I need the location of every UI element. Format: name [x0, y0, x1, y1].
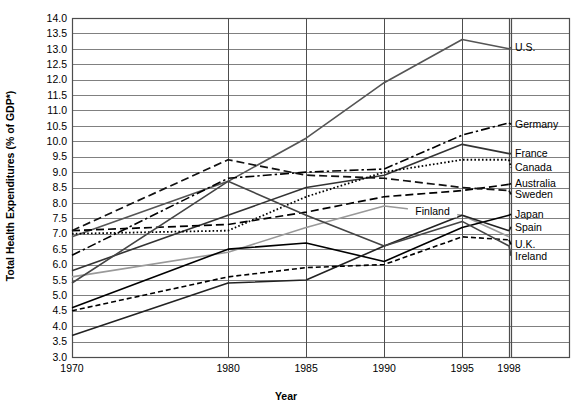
y-tick-label: 9.0 — [52, 166, 67, 178]
vertical-gridlines — [73, 18, 512, 357]
y-axis-tick-labels: 14.013.513.012.512.011.511.010.510.09.59… — [47, 12, 68, 363]
y-tick-label: 3.0 — [52, 351, 67, 363]
series-label-spain: Spain — [515, 221, 542, 233]
y-tick-label: 6.0 — [52, 258, 67, 270]
x-axis-tick-labels: 197019801985199019951998 — [60, 362, 521, 374]
y-tick-label: 12.5 — [47, 58, 68, 70]
y-axis-title: Total Health Expenditures (% of GDP*) — [4, 91, 16, 282]
y-tick-label: 5.5 — [52, 274, 67, 286]
y-tick-label: 13.5 — [47, 27, 68, 39]
series-label-canada: Canada — [515, 161, 552, 173]
y-tick-label: 6.5 — [52, 243, 67, 255]
y-tick-label: 3.5 — [52, 335, 67, 347]
y-tick-label: 8.5 — [52, 181, 67, 193]
y-tick-label: 9.5 — [52, 150, 67, 162]
y-tick-label: 10.0 — [47, 135, 68, 147]
x-tick-label: 1985 — [294, 362, 318, 374]
y-tick-label: 7.5 — [52, 212, 67, 224]
y-tick-label: 11.5 — [47, 89, 67, 101]
series-right-labels: U.S.GermanyFranceCanadaAustraliaSwedenJa… — [515, 41, 559, 262]
leader-line — [509, 214, 511, 215]
y-tick-label: 13.0 — [47, 43, 68, 55]
y-tick-label: 11.0 — [47, 104, 67, 116]
series-label-finland: Finland — [415, 205, 450, 217]
x-tick-label: 1990 — [372, 362, 396, 374]
y-tick-label: 12.0 — [47, 73, 68, 85]
chart-figure: 14.013.513.012.512.011.511.010.510.09.59… — [0, 0, 572, 409]
y-tick-label: 5.0 — [52, 289, 67, 301]
y-tick-label: 7.0 — [52, 227, 67, 239]
horizontal-gridlines — [72, 19, 569, 358]
x-tick-label: 1998 — [497, 362, 521, 374]
y-tick-label: 4.0 — [52, 320, 67, 332]
series-label-ireland: Ireland — [515, 250, 547, 262]
series-label-us: U.S. — [515, 41, 535, 53]
series-label-japan: Japan — [515, 208, 544, 220]
series-line-sweden — [72, 160, 509, 231]
y-tick-label: 4.5 — [52, 304, 67, 316]
x-tick-label: 1980 — [216, 362, 240, 374]
y-tick-label: 8.0 — [52, 197, 67, 209]
series-label-uk: U.K. — [515, 238, 535, 250]
line-chart-canvas: 14.013.513.012.512.011.511.010.510.09.59… — [0, 0, 572, 409]
x-tick-label: 1995 — [450, 362, 474, 374]
x-tick-label: 1970 — [60, 362, 84, 374]
y-tick-label: 14.0 — [47, 12, 68, 24]
y-tick-label: 10.5 — [47, 120, 68, 132]
series-label-germany: Germany — [515, 118, 559, 130]
series-label-france: France — [515, 147, 548, 159]
series-label-sweden: Sweden — [515, 188, 553, 200]
series-line-japan — [72, 215, 509, 307]
data-series-lines — [72, 40, 511, 336]
leader-line — [509, 183, 511, 184]
series-inline-labels: Finland — [408, 205, 457, 218]
x-axis-title: Year — [275, 390, 297, 402]
